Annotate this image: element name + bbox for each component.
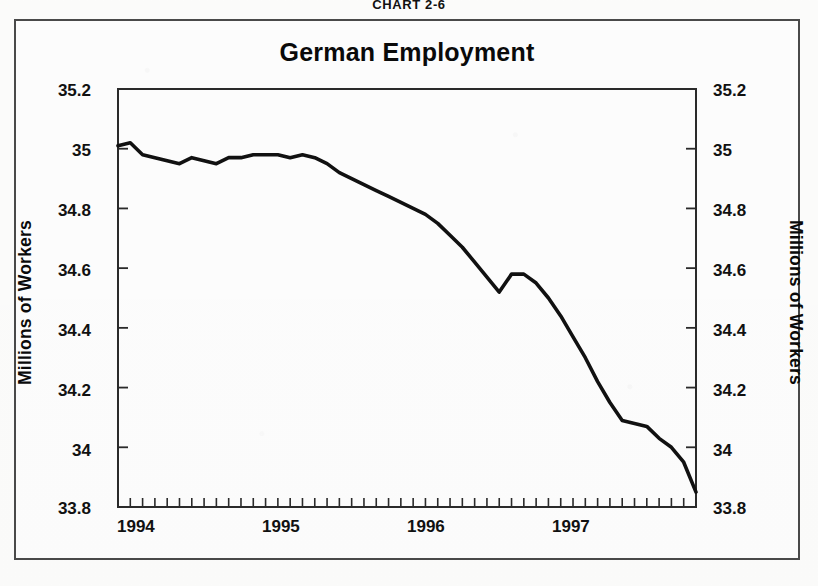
x-axis-minor-ticks [118,498,696,507]
plot-canvas [0,0,818,586]
employment-line-series [118,143,696,492]
y-axis-right-ticks [686,149,696,448]
chart-figure: CHART 2-6 German Employment 35.2 35 34.8… [0,0,818,586]
y-axis-left-ticks [118,149,128,448]
